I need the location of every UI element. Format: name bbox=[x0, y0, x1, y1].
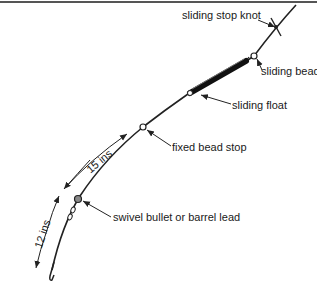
label-sliding-float: sliding float bbox=[232, 99, 287, 111]
fixed-bead-icon bbox=[140, 124, 146, 130]
sliding-bead-icon bbox=[251, 53, 257, 59]
label-swivel-lead: swivel bullet or barrel lead bbox=[113, 211, 240, 223]
swivel-lead-icon bbox=[67, 196, 82, 221]
label-sliding-bead: sliding bead bbox=[261, 65, 317, 77]
rig-diagram bbox=[0, 0, 317, 282]
hook-icon bbox=[50, 262, 54, 280]
fishing-line bbox=[52, 5, 296, 270]
label-sliding-stop-knot: sliding stop knot bbox=[182, 9, 261, 21]
sliding-float-icon bbox=[188, 57, 250, 96]
label-fixed-bead-stop: fixed bead stop bbox=[172, 141, 247, 153]
